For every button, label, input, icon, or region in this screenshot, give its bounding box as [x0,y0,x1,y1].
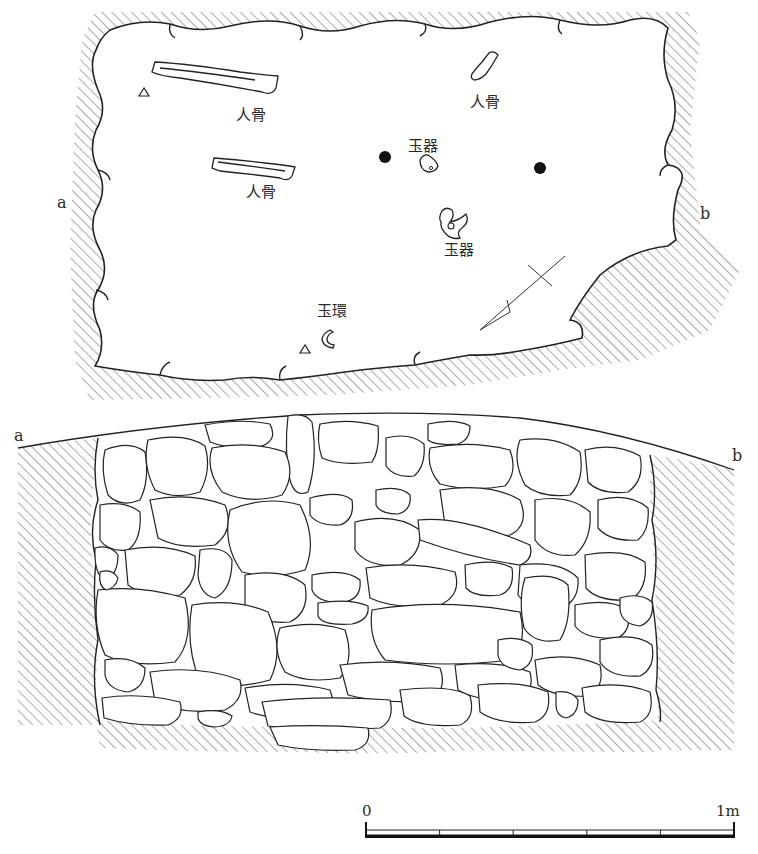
scale-bar [366,822,734,838]
plan-label-b: b [700,206,710,222]
burial-diagram [0,0,758,854]
label-jade-artifact-1: 玉器 [408,139,438,154]
scale-end-label: 1m [716,802,740,820]
plan-view [70,12,740,400]
post-hole-2 [534,162,546,174]
section-hatch-left [18,438,100,725]
label-human-bone-3: 人骨 [470,95,500,110]
section-label-b: b [732,448,742,464]
label-jade-ring: 玉環 [317,304,347,319]
label-jade-artifact-2: 玉器 [444,243,474,258]
scale-start-label: 0 [362,802,372,820]
stone-packing [95,415,653,751]
section-label-a: a [14,428,24,444]
label-human-bone-2: 人骨 [246,185,276,200]
section-hatch-right [650,455,734,750]
post-hole-1 [379,151,391,163]
plan-label-a: a [57,195,67,211]
label-human-bone-1: 人骨 [236,108,266,123]
section-view [18,413,734,754]
